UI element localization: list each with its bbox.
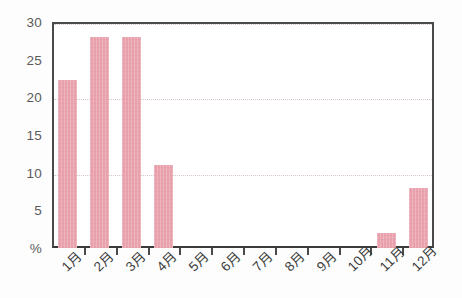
bar (122, 37, 141, 248)
x-tick-mark (339, 248, 341, 255)
x-tick-mark (179, 248, 181, 255)
bar (90, 37, 109, 248)
y-tick-label: 20 (26, 90, 42, 105)
x-tick-mark (243, 248, 245, 255)
y-tick-label: 5 (34, 203, 42, 218)
x-tick-mark (84, 248, 86, 255)
x-tick-mark (116, 248, 118, 255)
y-tick-label: % (30, 241, 42, 256)
bar (409, 188, 428, 248)
x-axis: 1月2月3月4月5月6月7月8月9月10月11月12月 (52, 255, 434, 298)
bar (58, 80, 77, 248)
chart-screenshot: %51015202530 1月2月3月4月5月6月7月8月9月10月11月12月 (0, 0, 462, 298)
y-tick-label: 15 (26, 128, 42, 143)
y-axis: %51015202530 (0, 0, 52, 298)
y-tick-label: 25 (26, 52, 42, 67)
bar-series (52, 22, 434, 248)
x-tick-mark (275, 248, 277, 255)
y-tick-label: 30 (26, 15, 42, 30)
x-tick-mark (148, 248, 150, 255)
y-tick-label: 10 (26, 165, 42, 180)
x-tick-mark (307, 248, 309, 255)
bar (154, 165, 173, 248)
x-tick-mark (211, 248, 213, 255)
